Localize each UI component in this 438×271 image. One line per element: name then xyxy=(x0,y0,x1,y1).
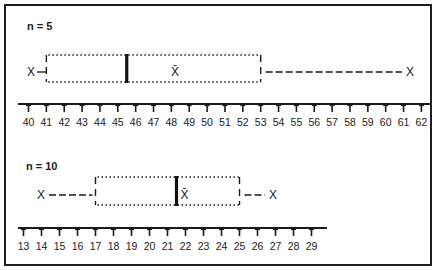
tick-label: 54 xyxy=(273,116,285,128)
tick-label: 47 xyxy=(148,116,160,128)
tick-label: 52 xyxy=(237,116,249,128)
tick-label: 46 xyxy=(130,116,142,128)
tick-label: 53 xyxy=(255,116,267,128)
tick-label: 49 xyxy=(183,116,195,128)
tick-label: 40 xyxy=(23,116,35,128)
tick-label: 58 xyxy=(344,116,356,128)
tick-label: 56 xyxy=(308,116,320,128)
number-line-40-62: 4041424344454647484950515253545556575859… xyxy=(18,104,430,128)
high-extreme-marker: X xyxy=(269,188,277,202)
panel-n5: n = 5 X̄XX 40414243444546474849505152535… xyxy=(18,20,430,128)
tick-label: 29 xyxy=(306,240,318,252)
tick-label: 23 xyxy=(198,240,210,252)
tick-label: 42 xyxy=(58,116,70,128)
tick-label: 22 xyxy=(180,240,192,252)
boxplot-figure: n = 5 X̄XX 40414243444546474849505152535… xyxy=(0,0,438,271)
tick-label: 59 xyxy=(362,116,374,128)
tick-label: 24 xyxy=(216,240,228,252)
tick-label: 43 xyxy=(76,116,88,128)
tick-label: 21 xyxy=(162,240,174,252)
low-extreme-marker: X xyxy=(27,65,35,79)
tick-label: 25 xyxy=(234,240,246,252)
tick-label: 41 xyxy=(41,116,53,128)
mean-marker: X̄ xyxy=(181,188,189,202)
mean-marker: X̄ xyxy=(171,65,179,79)
panel-n10: n = 10 X̄XX 1314151617181920212223242526… xyxy=(18,160,327,252)
high-extreme-marker: X xyxy=(406,65,414,79)
sample-size-label: n = 5 xyxy=(27,20,52,32)
tick-label: 17 xyxy=(90,240,102,252)
tick-label: 18 xyxy=(108,240,120,252)
tick-label: 62 xyxy=(416,116,428,128)
tick-label: 26 xyxy=(252,240,264,252)
tick-label: 44 xyxy=(94,116,106,128)
tick-label: 14 xyxy=(36,240,48,252)
tick-label: 60 xyxy=(380,116,392,128)
tick-label: 50 xyxy=(201,116,213,128)
tick-label: 61 xyxy=(398,116,410,128)
tick-label: 55 xyxy=(291,116,303,128)
sample-size-label: n = 10 xyxy=(26,160,58,172)
tick-label: 27 xyxy=(270,240,282,252)
tick-label: 57 xyxy=(326,116,338,128)
box-plot-n10: X̄XX xyxy=(37,176,277,206)
tick-label: 16 xyxy=(72,240,84,252)
box-plot-n5: X̄XX xyxy=(27,54,414,83)
tick-label: 51 xyxy=(219,116,231,128)
tick-label: 48 xyxy=(166,116,178,128)
tick-label: 28 xyxy=(288,240,300,252)
tick-label: 45 xyxy=(112,116,124,128)
tick-label: 19 xyxy=(126,240,138,252)
tick-label: 13 xyxy=(18,240,30,252)
low-extreme-marker: X xyxy=(37,188,45,202)
number-line-13-29: 1314151617181920212223242526272829 xyxy=(18,228,327,252)
tick-label: 20 xyxy=(144,240,156,252)
tick-label: 15 xyxy=(54,240,66,252)
